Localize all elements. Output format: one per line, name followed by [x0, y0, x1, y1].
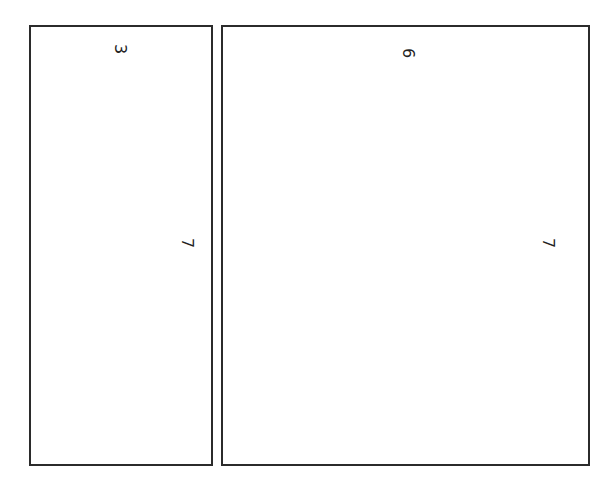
- right-rectangle-width-label: 6: [400, 48, 416, 58]
- right-rectangle: [221, 25, 590, 466]
- left-rectangle-width-label: 3: [112, 44, 128, 54]
- right-rectangle-height-label: 7: [540, 238, 556, 248]
- left-rectangle-height-label: 7: [179, 238, 195, 248]
